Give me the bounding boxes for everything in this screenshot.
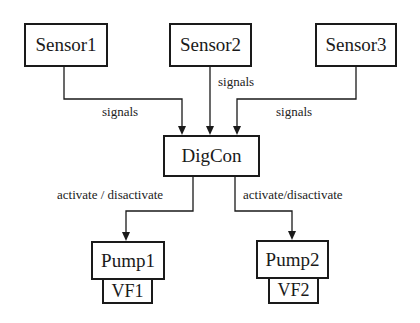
node-sub-label: VF1 — [111, 281, 143, 302]
arrowhead-icon — [206, 126, 214, 135]
edge-label-sensor3: signals — [276, 104, 312, 120]
node-sensor3: Sensor3 — [315, 23, 397, 67]
edge-digcon-pump2 — [235, 177, 292, 232]
arrowhead-icon — [233, 126, 241, 135]
edge-label-pump2: activate/disactivate — [243, 187, 343, 203]
node-label: DigCon — [181, 145, 241, 167]
node-pump2: Pump2 — [256, 240, 329, 279]
node-pump1: Pump1 — [91, 241, 165, 280]
node-vf1: VF1 — [102, 278, 153, 304]
node-sensor1: Sensor1 — [24, 23, 108, 67]
node-label: Pump1 — [101, 250, 155, 272]
node-label: Sensor2 — [180, 34, 241, 56]
node-digcon: DigCon — [163, 135, 260, 177]
node-label: Sensor3 — [325, 34, 386, 56]
node-label: Sensor1 — [35, 34, 96, 56]
edge-label-sensor2: signals — [218, 74, 254, 90]
edge-label-pump1: activate / disactivate — [57, 187, 163, 203]
node-vf2: VF2 — [268, 277, 319, 304]
edge-label-sensor1: signals — [102, 104, 138, 120]
node-sub-label: VF2 — [277, 280, 309, 301]
node-label: Pump2 — [266, 249, 320, 271]
arrowhead-icon — [178, 126, 186, 135]
arrowhead-icon — [288, 231, 296, 240]
arrowhead-icon — [122, 232, 130, 241]
edge-digcon-pump1 — [126, 177, 193, 233]
node-sensor2: Sensor2 — [169, 23, 252, 67]
